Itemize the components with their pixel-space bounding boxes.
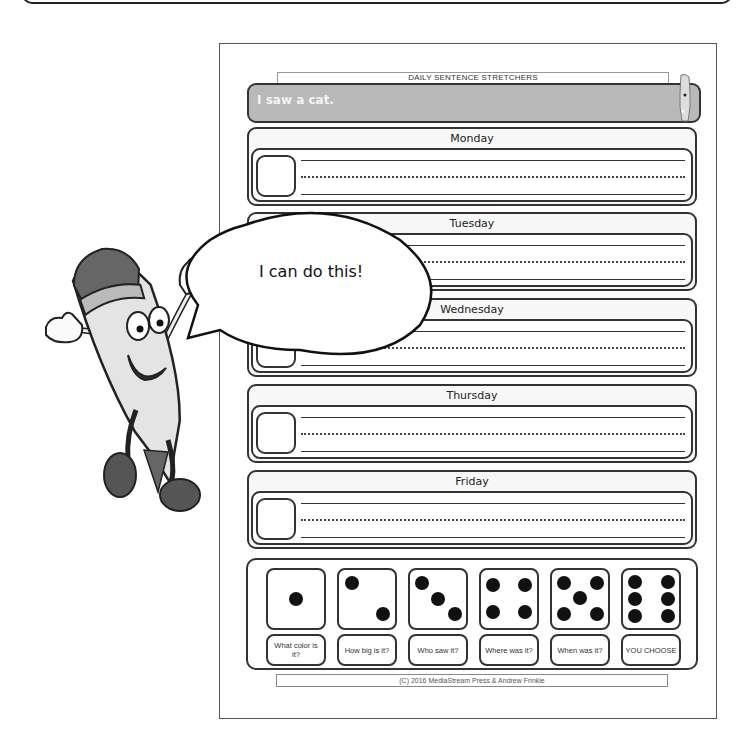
writing-line-top [301, 503, 685, 504]
day-label: Friday [249, 475, 695, 488]
writing-line-dotted [301, 176, 685, 178]
day-label: Thursday [249, 389, 695, 402]
speech-bubble-text: I can do this! [259, 262, 363, 281]
worksheet-header-title: DAILY SENTENCE STRETCHERS [277, 72, 669, 83]
writing-area[interactable] [251, 405, 693, 459]
check-box[interactable] [256, 498, 296, 540]
dice-prompt-label: Where was it? [479, 634, 539, 666]
day-section-monday: Monday [247, 127, 697, 206]
writing-line-top [301, 160, 685, 161]
speech-bubble-icon [150, 200, 440, 370]
dice-prompt-1: What color is it? [266, 568, 326, 666]
copyright-footer: (C) 2016 MediaStream Press & Andrew Frin… [276, 674, 668, 687]
writing-line-bottom [301, 451, 685, 452]
dice-prompt-4: Where was it? [479, 568, 539, 666]
dice-prompt-3: Who saw it? [408, 568, 468, 666]
die-six-icon [621, 568, 681, 630]
day-section-thursday: Thursday [247, 384, 697, 463]
dice-prompt-5: When was it? [550, 568, 610, 666]
die-four-icon [479, 568, 539, 630]
day-section-friday: Friday [247, 470, 697, 549]
check-box[interactable] [256, 412, 296, 454]
die-two-icon [337, 568, 397, 630]
dice-prompt-label: What color is it? [266, 634, 326, 666]
die-five-icon [550, 568, 610, 630]
writing-area[interactable] [251, 148, 693, 202]
dice-prompt-2: How big is it? [337, 568, 397, 666]
dice-prompts-panel: What color is it? How big is it? Who saw… [246, 558, 698, 670]
dice-prompt-6: YOU CHOOSE [621, 568, 681, 666]
prompt-sentence: I saw a cat. [257, 93, 334, 107]
writing-line-bottom [301, 194, 685, 195]
top-frame-border [22, 0, 732, 4]
dice-prompt-label: Who saw it? [408, 634, 468, 666]
day-label: Monday [249, 132, 695, 145]
prompt-sentence-bar: I saw a cat. [247, 83, 701, 123]
die-one-icon [266, 568, 326, 630]
writing-line-dotted [301, 433, 685, 435]
die-three-icon [408, 568, 468, 630]
check-box[interactable] [256, 155, 296, 197]
dice-prompt-label: How big is it? [337, 634, 397, 666]
dice-prompt-label: YOU CHOOSE [621, 634, 681, 666]
cat-decoration-icon [677, 73, 693, 125]
writing-area[interactable] [251, 491, 693, 545]
writing-line-bottom [301, 537, 685, 538]
writing-line-dotted [301, 519, 685, 521]
dice-prompt-label: When was it? [550, 634, 610, 666]
writing-line-top [301, 417, 685, 418]
